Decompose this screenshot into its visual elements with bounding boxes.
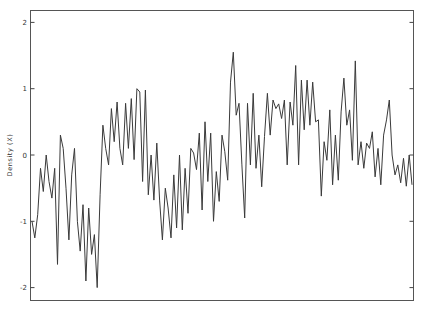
line-chart: 210-1-2 Density (X) [0, 0, 424, 314]
y-axis-label: Density (X) [6, 134, 14, 177]
plot-frame [31, 11, 414, 301]
y-tick-label: 1 [23, 85, 27, 93]
y-tick-label: -1 [20, 218, 27, 226]
y-tick-label: -2 [20, 284, 27, 292]
y-axis-ticks: 210-1-2 [20, 19, 34, 292]
y-tick-label: 0 [23, 152, 27, 160]
y-tick-label: 2 [23, 19, 27, 27]
density-series-line [32, 52, 412, 287]
right-axis-ticks [410, 22, 414, 287]
